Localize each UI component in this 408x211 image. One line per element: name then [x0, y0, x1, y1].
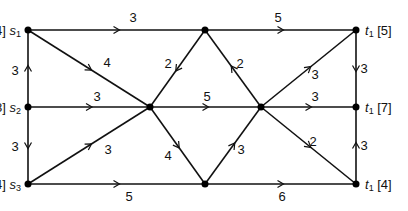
node-s1	[25, 27, 32, 34]
node-label-t1a: t1 [5]	[365, 23, 392, 39]
node-s2	[25, 104, 32, 111]
edge-weight: 3	[311, 89, 318, 104]
edges	[25, 27, 360, 188]
edge-weight: 3	[360, 138, 367, 153]
edge-d-c	[205, 107, 261, 184]
edge-weight: 5	[203, 89, 210, 104]
node-a	[202, 27, 209, 34]
edge-weight: 2	[309, 134, 316, 149]
edge-weight: 3	[11, 63, 18, 78]
edge-weight: 3	[104, 142, 111, 157]
node-label-s1: [4] s1	[0, 23, 21, 39]
edge-weight: 3	[11, 139, 18, 154]
node-d	[202, 181, 209, 188]
edge-b-d	[150, 107, 205, 184]
edge-weight: 4	[164, 148, 171, 163]
edge-weight: 3	[129, 10, 136, 25]
edge-weight: 5	[125, 189, 132, 204]
node-t1c	[353, 181, 360, 188]
node-c	[258, 104, 265, 111]
node-t1b	[353, 104, 360, 111]
node-label-t1c: t1 [4]	[365, 177, 392, 193]
edge-weight: 6	[278, 189, 285, 204]
network-diagram: 3542233335333432356 [4] s1t1 [5][8] s2t1…	[0, 0, 408, 211]
edge-weight: 2	[236, 56, 243, 71]
edge-s3-b	[28, 107, 150, 184]
edge-weight: 2	[164, 56, 171, 71]
edge-weight: 3	[237, 142, 244, 157]
edge-weight: 3	[360, 61, 367, 76]
edge-c-t1a	[261, 30, 356, 107]
node-label-t1b: t1 [7]	[365, 100, 392, 116]
edge-weight: 3	[93, 89, 100, 104]
node-t1a	[353, 27, 360, 34]
node-label-s2: [8] s2	[0, 100, 21, 116]
node-b	[147, 104, 154, 111]
edge-c-a	[205, 30, 261, 107]
edge-weight: 4	[103, 55, 110, 70]
edge-weight: 3	[311, 67, 318, 82]
node-label-s3: [4] s3	[0, 177, 21, 193]
edge-weight: 5	[274, 10, 281, 25]
node-s3	[25, 181, 32, 188]
edge-a-b	[150, 30, 205, 107]
edge-s1-b	[28, 30, 150, 107]
